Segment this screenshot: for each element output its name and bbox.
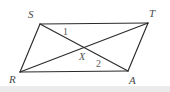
angle-label-2: 2 <box>96 59 101 69</box>
vertex-label-A: A <box>129 75 136 86</box>
vertex-label-R: R <box>9 74 16 85</box>
geometry-figure: S T R A X 1 2 <box>0 0 170 92</box>
bottom-gray-band <box>0 86 170 92</box>
angle-label-1: 1 <box>63 27 68 37</box>
side-ST <box>40 23 148 24</box>
parallelogram-diagram-svg <box>0 0 170 92</box>
side-AR <box>20 71 128 72</box>
vertex-label-S: S <box>28 9 34 20</box>
side-RS <box>20 24 40 72</box>
vertex-label-T: T <box>149 8 155 19</box>
side-TA <box>128 23 148 71</box>
intersection-label-X: X <box>79 52 85 62</box>
diagonal-RT <box>20 23 148 72</box>
